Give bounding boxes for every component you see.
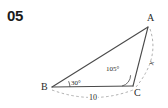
measure-arc-ac [136, 29, 153, 87]
vertex-label-b: B [41, 82, 48, 92]
side-label-bc: 10 [88, 94, 98, 102]
angle-arc-b [69, 81, 70, 87]
triangle-diagram [0, 0, 168, 108]
side-ab-line [52, 27, 148, 87]
side-bc-line [52, 86, 133, 87]
problem-figure-screen: 05 A B C 30° 105° 10 x [0, 0, 168, 108]
vertex-label-c: C [134, 88, 141, 98]
vertex-label-a: A [147, 13, 154, 23]
angle-label-b: 30° [71, 80, 81, 87]
angle-label-c: 105° [106, 66, 119, 73]
angle-arc-c [122, 75, 131, 86]
side-ac-line [133, 27, 148, 86]
